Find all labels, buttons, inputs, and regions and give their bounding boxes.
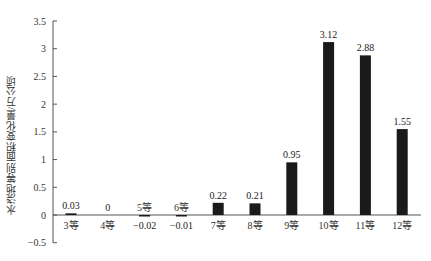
y-tick-label: 3.5 — [34, 16, 47, 27]
bar — [286, 162, 297, 215]
y-tick-label: 0.5 — [34, 182, 47, 193]
bar — [323, 42, 334, 215]
x-tick-label: 7等 — [211, 219, 226, 231]
x-tick-label: 12等 — [392, 219, 412, 231]
x-tick-label: 8等 — [248, 219, 263, 231]
x-tick-label: 6等 — [174, 201, 189, 213]
data-label: 0 — [105, 202, 110, 213]
data-label: 1.55 — [393, 116, 411, 127]
data-label: 2.88 — [357, 42, 375, 53]
bar — [66, 213, 77, 215]
data-label: 3.12 — [320, 29, 338, 40]
bar — [360, 55, 371, 215]
y-tick-label: 0 — [41, 210, 46, 221]
data-label: 0.21 — [246, 190, 264, 201]
bar — [213, 203, 224, 215]
y-tick-label: −0.5 — [28, 237, 46, 248]
data-label: 0.22 — [209, 190, 227, 201]
y-tick-label: 2 — [41, 99, 46, 110]
bar — [397, 129, 408, 215]
x-tick-label: 3等 — [64, 219, 79, 231]
bar-chart: −0.500.511.522.533.50.033等04等5等−0.026等−0… — [0, 0, 431, 261]
x-tick-label: 9等 — [284, 219, 299, 231]
x-tick-label: 10等 — [319, 219, 339, 231]
bar — [139, 215, 150, 217]
data-label: 0.03 — [62, 200, 80, 211]
y-tick-label: 1.5 — [34, 126, 47, 137]
bar — [176, 215, 187, 217]
y-tick-label: 1 — [41, 154, 46, 165]
x-tick-label: 4等 — [100, 219, 115, 231]
bar — [250, 203, 261, 215]
y-tick-label: 3 — [41, 43, 46, 54]
data-label: −0.01 — [170, 220, 193, 231]
x-tick-label: 5等 — [137, 201, 152, 213]
data-label: 0.95 — [283, 149, 301, 160]
y-tick-label: 2.5 — [34, 71, 47, 82]
data-label: −0.02 — [133, 220, 156, 231]
x-tick-label: 11等 — [356, 219, 376, 231]
